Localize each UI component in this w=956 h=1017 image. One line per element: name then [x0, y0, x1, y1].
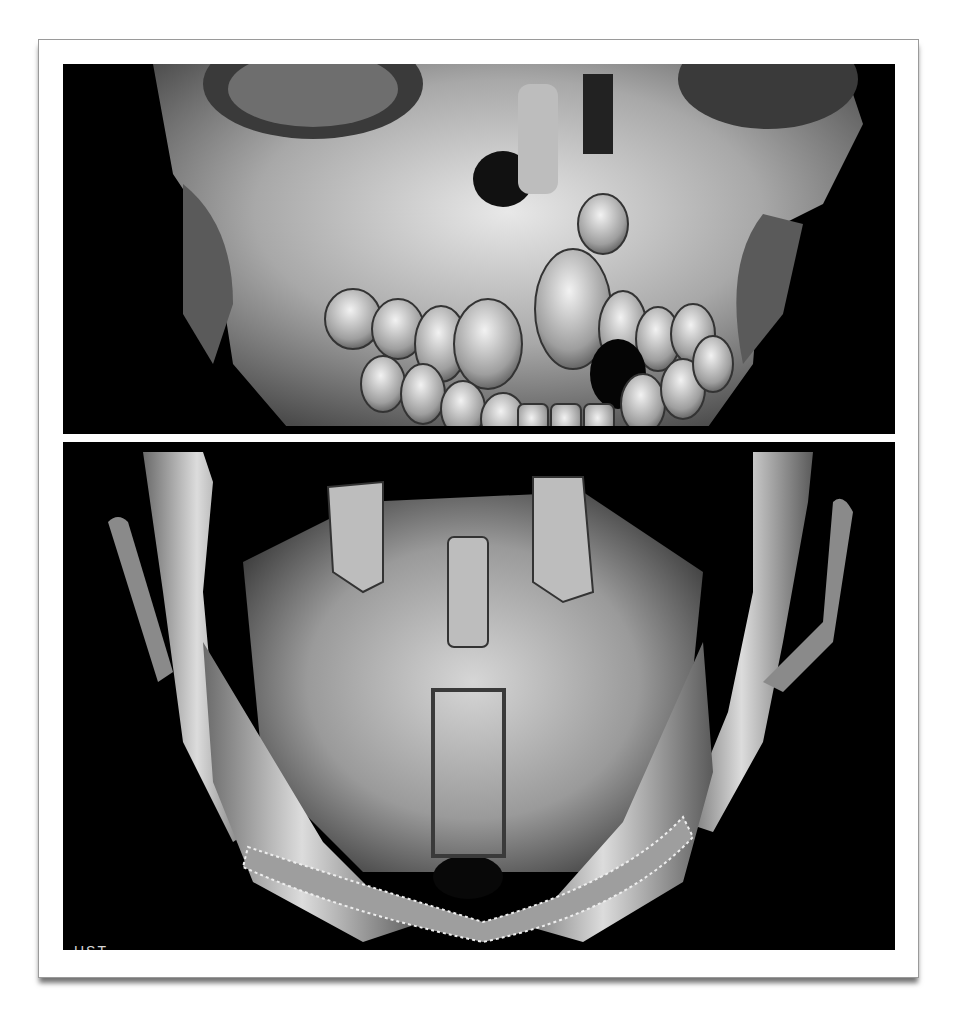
- skull-illustration: [63, 64, 895, 434]
- ct-render-frontal-skull: [63, 64, 895, 434]
- panel-corner-label: HST: [74, 944, 108, 950]
- roi-annotation-box: [431, 688, 506, 858]
- figure-caption: [20, 1008, 936, 1017]
